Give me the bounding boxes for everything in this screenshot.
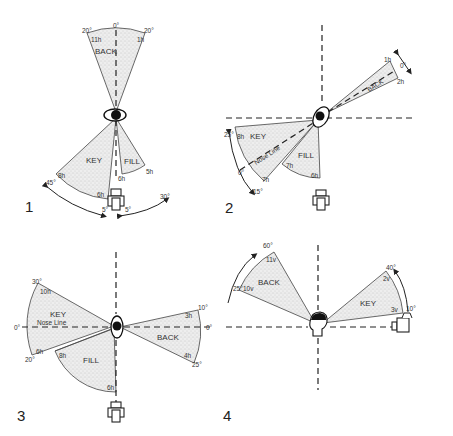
camera-icon xyxy=(313,190,329,210)
back-angle-top-label: 60° xyxy=(263,242,273,249)
back-label: BACK xyxy=(157,333,179,342)
camera-icon xyxy=(108,189,124,210)
bottom-right-angle-label: 5° xyxy=(125,206,132,213)
subject-head-icon xyxy=(111,110,121,120)
back-height-bottom-label: 2h xyxy=(397,78,405,85)
fill-height-b-label: 6h xyxy=(311,172,319,179)
back-left-height-label: 11h xyxy=(91,36,102,43)
back-center-angle-label: 0° xyxy=(113,22,120,29)
key-label: KEY xyxy=(86,156,103,165)
panel-4: 60° 11v BACK 25° 10v 40° 2v KEY 3v 10° 4 xyxy=(223,242,416,424)
key-label: KEY xyxy=(50,310,67,319)
subject-head-icon xyxy=(113,322,122,331)
panel-number: 2 xyxy=(225,199,233,216)
fill-label: FILL xyxy=(124,157,141,166)
panel-2: 1h 2h 0° BACK 25° 8h KEY Nose Line 0° 7h… xyxy=(224,25,412,216)
fill-label: FILL xyxy=(298,151,315,160)
back-label: BACK xyxy=(95,47,117,56)
fill-height-a-label: 7h xyxy=(286,162,294,169)
key-inner-height-label: 7h xyxy=(262,176,270,183)
back-label: BACK xyxy=(258,278,280,287)
left-angle-label: 0° xyxy=(14,324,21,331)
back-height-bottom-label: 10v xyxy=(243,285,254,292)
back-left-angle-label: 20° xyxy=(82,27,92,34)
fill-angle-label: 30° xyxy=(160,193,170,200)
panel-number: 3 xyxy=(17,407,25,424)
camera-icon xyxy=(392,313,412,332)
back-height-top-label: 1h xyxy=(384,56,392,63)
back-angle-bottom-label: 25° xyxy=(233,285,243,292)
back-right-angle-label: 20° xyxy=(144,27,154,34)
back-height-top-label: 3h xyxy=(185,312,193,319)
key-angle-label: 45° xyxy=(46,179,56,186)
key-angle-top-label: 40° xyxy=(386,264,396,271)
back-angle-bottom-label: 25° xyxy=(192,361,202,368)
key-height-bottom-label: 3v xyxy=(391,306,399,313)
back-angle-label: 0° xyxy=(400,62,407,69)
bottom-left-angle-label: 5° xyxy=(102,206,109,213)
back-angle-top-label: 10° xyxy=(198,304,208,311)
fill-label: FILL xyxy=(83,356,100,365)
nose-line-label: Nose Line xyxy=(37,319,67,326)
key-height-label: 8h xyxy=(237,133,245,140)
panel-1: 20° 0° 20° 11h 1h BACK KEY FILL 8h 6h 6h… xyxy=(25,22,170,216)
right-angle-label: 0° xyxy=(206,324,213,331)
lighting-diagrams: 20° 0° 20° 11h 1h BACK KEY FILL 8h 6h 6h… xyxy=(0,0,453,436)
key-angle-top-label: 30° xyxy=(32,278,42,285)
key-height-top-label: 10h xyxy=(40,288,51,295)
key-label: KEY xyxy=(250,132,267,141)
key-outer-height-label: 8h xyxy=(58,172,66,179)
fill-height-label: 5h xyxy=(146,168,154,175)
center-height-label: 6h xyxy=(118,175,126,182)
key-height-top-label: 2v xyxy=(383,275,391,282)
key-angle-bottom-label: 10° xyxy=(406,305,416,312)
back-height-bottom-label: 4h xyxy=(184,352,192,359)
fill-height-bottom-label: 6h xyxy=(107,384,115,391)
key-angle-bottom-label: 15° xyxy=(253,188,263,195)
key-light-sector xyxy=(323,271,403,323)
fill-height-top-label: 8h xyxy=(59,352,67,359)
back-light-sector xyxy=(326,61,398,113)
camera-icon xyxy=(108,402,124,422)
key-height-bottom-label: 6h xyxy=(36,348,44,355)
panel-number: 4 xyxy=(223,407,231,424)
panel-3: 30° 10h KEY Nose Line 0° 6h 20° 8h FILL … xyxy=(14,252,213,424)
panel-number: 1 xyxy=(25,198,33,215)
nose-angle-label: 0° xyxy=(238,169,245,176)
back-right-height-label: 1h xyxy=(137,36,145,43)
key-inner-height-label: 6h xyxy=(97,191,105,198)
subject-profile-icon xyxy=(310,312,327,336)
key-angle-bottom-label: 20° xyxy=(25,356,35,363)
subject-head-icon xyxy=(316,112,325,121)
key-angle-top-label: 25° xyxy=(224,131,234,138)
back-height-top-label: 11v xyxy=(266,256,277,263)
key-label: KEY xyxy=(360,299,377,308)
